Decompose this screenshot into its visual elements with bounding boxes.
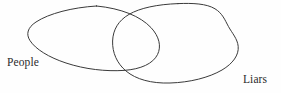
venn-diagram-canvas: People Liars — [0, 0, 281, 93]
set-label-people: People — [7, 56, 39, 68]
set-shape-liars — [113, 3, 239, 83]
set-shape-people — [28, 6, 160, 71]
venn-diagram-shapes — [0, 0, 281, 93]
set-label-liars: Liars — [243, 73, 267, 85]
